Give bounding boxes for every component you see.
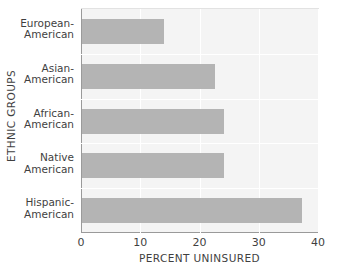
category-label-line: American [18, 164, 74, 176]
category-label-line: American [18, 29, 74, 41]
bar [82, 64, 215, 89]
y-gridline [81, 54, 318, 55]
x-tick-label: 10 [120, 236, 160, 249]
y-axis-title-text: ETHNIC GROUPS [5, 70, 17, 162]
plot-area [81, 8, 319, 233]
y-gridline [81, 99, 318, 100]
x-tick-label: 40 [298, 236, 338, 249]
x-tick-label: 30 [239, 236, 279, 249]
category-label: Hispanic-American [18, 197, 74, 220]
x-axis-title: PERCENT UNINSURED [81, 252, 318, 264]
x-tick-label: 20 [180, 236, 220, 249]
category-label: Asian-American [18, 63, 74, 86]
category-label-line: Hispanic- [18, 197, 74, 209]
category-label: European-American [18, 18, 74, 41]
category-label-line: American [18, 74, 74, 86]
x-gridline [318, 9, 319, 233]
bar [82, 153, 224, 178]
bar [82, 19, 164, 44]
x-tick-label: 0 [61, 236, 101, 249]
category-label-line: American [18, 209, 74, 221]
bar [82, 109, 224, 134]
bar [82, 198, 302, 223]
category-label: NativeAmerican [18, 152, 74, 175]
category-label: African-American [18, 108, 74, 131]
y-gridline [81, 188, 318, 189]
bar-chart-figure: ETHNIC GROUPS PERCENT UNINSURED 01020304… [0, 0, 350, 274]
y-gridline [81, 143, 318, 144]
category-label-line: American [18, 119, 74, 131]
